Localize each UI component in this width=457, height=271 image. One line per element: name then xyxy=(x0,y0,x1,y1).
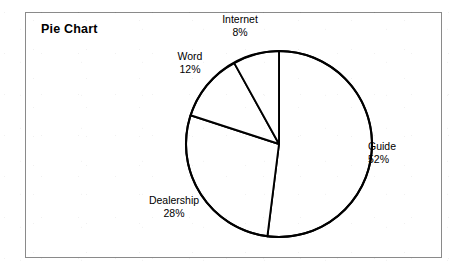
pie-slice-guide[interactable] xyxy=(267,51,372,237)
pie-label-word-name: Word xyxy=(178,50,203,62)
pie-label-internet-name: Internet xyxy=(222,13,258,25)
pie-label-internet-percent: 8% xyxy=(190,26,290,39)
pie-slice-guide-path[interactable] xyxy=(267,51,372,237)
pie-label-guide-name: Guide xyxy=(368,140,396,152)
pie-label-guide-percent: 52% xyxy=(368,153,430,166)
pie-label-word: Word 12% xyxy=(152,50,228,76)
pie-label-internet: Internet 8% xyxy=(190,13,290,39)
pie-chart-graphic xyxy=(0,0,457,271)
pie-label-dealership-percent: 28% xyxy=(131,207,217,220)
pie-label-guide: Guide 52% xyxy=(368,140,430,166)
page-canvas: Pie Chart Internet 8% Word 12% Guide 52% xyxy=(0,0,457,271)
pie-label-word-percent: 12% xyxy=(152,63,228,76)
pie-label-dealership: Dealership 28% xyxy=(131,194,217,220)
pie-label-dealership-name: Dealership xyxy=(149,194,199,206)
